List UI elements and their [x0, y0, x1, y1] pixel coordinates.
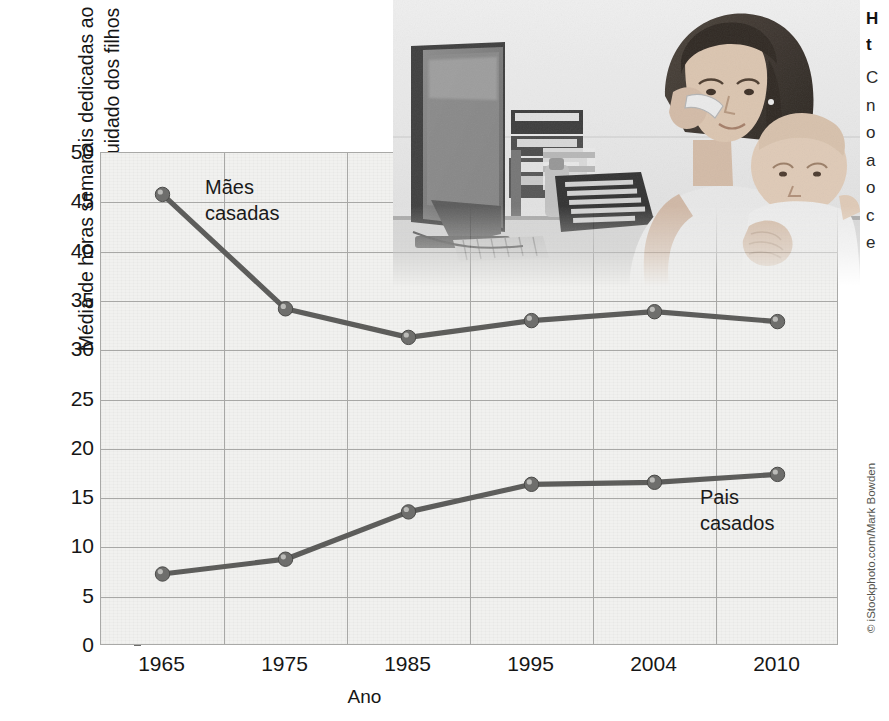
- series-label-pais-casados: Pais casados: [700, 485, 775, 536]
- data-point-1-1975: [278, 552, 292, 566]
- data-point-highlight-1-2004: [650, 477, 655, 482]
- y-tick-label-40: 40: [48, 239, 94, 263]
- data-point-highlight-0-1985: [404, 332, 409, 337]
- data-point-highlight-0-1975: [281, 304, 286, 309]
- y-tick-label-5: 5: [48, 584, 94, 608]
- x-tick-label-1985: 1985: [384, 652, 431, 676]
- data-point-0-2004: [647, 305, 661, 319]
- data-point-1-1965: [155, 567, 169, 581]
- y-axis-ticks: 05101520253035404550: [40, 152, 94, 645]
- y-tick-label-50: 50: [48, 140, 94, 164]
- x-axis-title-text: Ano: [348, 686, 382, 707]
- photo-credit-text: © iStockphoto.com/Mark Bowden: [865, 462, 877, 632]
- y-tick-label-45: 45: [48, 189, 94, 213]
- photo-illustration: [393, 0, 860, 286]
- x-tick-label-2010: 2010: [753, 652, 800, 676]
- data-point-highlight-1-1975: [281, 554, 286, 559]
- y-tick-label-0: 0: [48, 633, 94, 657]
- data-point-1-1985: [401, 505, 415, 519]
- y-tick-label-20: 20: [48, 436, 94, 460]
- data-point-1-1995: [524, 477, 538, 491]
- x-tick-label-1975: 1975: [261, 652, 308, 676]
- y-tick-mark-0: [134, 645, 141, 646]
- series-label-maes-casadas: Mães casadas: [205, 175, 280, 226]
- right-column-heading: H t: [866, 6, 889, 57]
- x-tick-label-2004: 2004: [630, 652, 677, 676]
- y-tick-label-15: 15: [48, 485, 94, 509]
- photo-mother-with-baby: [393, 0, 860, 286]
- y-tick-label-10: 10: [48, 534, 94, 558]
- x-axis-title: Ano: [0, 686, 889, 708]
- data-point-highlight-1-1985: [404, 507, 409, 512]
- data-point-0-1975: [278, 302, 292, 316]
- data-point-0-1965: [155, 187, 169, 201]
- data-point-0-1995: [524, 313, 538, 327]
- data-point-1-2010: [770, 467, 784, 481]
- right-text-column: H t C n o a o c e: [866, 6, 889, 257]
- data-point-0-1985: [401, 330, 415, 344]
- data-point-highlight-0-2004: [650, 307, 655, 312]
- data-point-highlight-0-1995: [527, 316, 532, 321]
- data-point-0-2010: [770, 314, 784, 328]
- data-point-highlight-0-1965: [158, 189, 163, 194]
- right-column-body: C n o a o c e: [866, 64, 889, 257]
- data-point-highlight-1-1995: [527, 479, 532, 484]
- data-point-highlight-1-1965: [158, 569, 163, 574]
- photo-credit: © iStockphoto.com/Mark Bowden: [862, 440, 880, 655]
- y-tick-label-35: 35: [48, 288, 94, 312]
- x-tick-label-1965: 1965: [138, 652, 185, 676]
- data-point-1-2004: [647, 475, 661, 489]
- series-line-1: [163, 474, 778, 574]
- y-tick-label-25: 25: [48, 387, 94, 411]
- data-point-highlight-1-2010: [773, 469, 778, 474]
- data-point-highlight-0-2010: [773, 317, 778, 322]
- y-tick-label-30: 30: [48, 337, 94, 361]
- chart-page: Média de horas semanais dedicadas ao tra…: [0, 0, 889, 721]
- x-tick-label-1995: 1995: [507, 652, 554, 676]
